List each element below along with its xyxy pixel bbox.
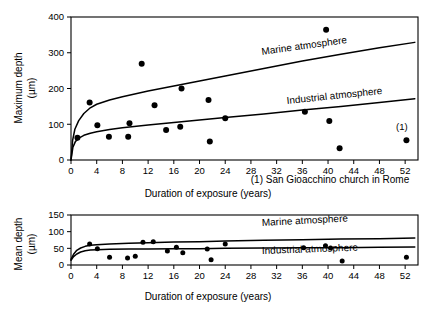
data-point <box>133 254 138 259</box>
data-point <box>209 257 214 262</box>
y-tick-label: 300 <box>48 47 64 58</box>
data-point <box>174 245 179 250</box>
fitted-curve <box>71 99 415 160</box>
x-tick-label: 16 <box>169 165 180 176</box>
data-point <box>403 137 409 143</box>
x-tick-label: 4 <box>94 270 99 281</box>
data-point <box>180 250 185 255</box>
x-tick-label: 12 <box>143 270 154 281</box>
y-tick-label: 200 <box>48 83 64 94</box>
curve-label-marine-top: Marine atmosphere <box>261 34 348 57</box>
x-tick-label: 28 <box>246 270 257 281</box>
data-point <box>163 127 169 133</box>
data-point <box>106 134 112 140</box>
data-point <box>223 242 228 247</box>
x-tick-label: 20 <box>194 165 205 176</box>
fitted-curves-top <box>71 42 415 160</box>
x-tick-label: 44 <box>348 270 359 281</box>
data-point <box>165 249 170 254</box>
y-tick-label: 100 <box>48 226 64 237</box>
figure-footnote: (1) San Gioacchino church in Rome <box>251 174 410 185</box>
data-point <box>222 115 228 121</box>
data-point <box>151 239 156 244</box>
y-axis-title-bottom-line2: (µm) <box>26 234 37 255</box>
data-point <box>326 118 332 124</box>
x-tick-label: 0 <box>68 270 73 281</box>
data-point <box>337 145 343 151</box>
x-tick-label: 48 <box>374 270 385 281</box>
x-tick-label: 0 <box>68 165 73 176</box>
x-axis-title-bottom: Duration of exposure (years) <box>145 291 272 302</box>
y-axis-title-top-line2: (µm) <box>26 78 37 99</box>
y-tick-label: 150 <box>48 209 64 220</box>
data-point <box>95 246 100 251</box>
data-point <box>94 122 100 128</box>
x-axis-title-top: Duration of exposure (years) <box>145 188 272 199</box>
fitted-curves-bottom <box>71 238 415 260</box>
corrosion-depth-figure: 04812162024283236404448520100200300400 M… <box>0 0 431 312</box>
data-point <box>125 256 130 261</box>
mean-depth-plot: 0481216202428323640444852050100150 Mean … <box>0 200 431 312</box>
x-tick-label: 8 <box>120 270 125 281</box>
data-point <box>404 255 409 260</box>
x-tick-label: 40 <box>323 270 334 281</box>
x-tick-label: 52 <box>400 270 411 281</box>
data-point <box>152 102 158 108</box>
y-tick-label: 0 <box>59 259 64 270</box>
y-tick-label: 50 <box>53 243 64 254</box>
y-axis-title-bottom-line1: Mean depth <box>13 218 24 271</box>
x-tick-label: 8 <box>120 165 125 176</box>
x-tick-label: 24 <box>220 270 231 281</box>
data-point <box>125 134 131 140</box>
curve-label-industrial-bottom: Industrial atmosphere <box>262 242 359 256</box>
data-point <box>139 61 145 67</box>
chart-mean-depth: 0481216202428323640444852050100150 Mean … <box>0 200 431 312</box>
data-point <box>302 109 308 115</box>
data-point <box>107 255 112 260</box>
maximum-depth-plot: 04812162024283236404448520100200300400 M… <box>0 0 431 200</box>
x-tick-label: 16 <box>169 270 180 281</box>
data-point <box>205 247 210 252</box>
point-annotation-marker: (1) <box>396 121 408 132</box>
data-point <box>340 259 345 264</box>
fitted-curve <box>71 42 415 160</box>
data-point <box>323 27 329 33</box>
y-tick-label: 100 <box>48 119 64 130</box>
data-point <box>140 240 145 245</box>
y-tick-label: 0 <box>59 154 64 165</box>
fitted-curve <box>71 247 415 260</box>
y-axis-title-top-line1: Maximum depth <box>13 52 24 123</box>
data-point <box>206 97 212 103</box>
data-point <box>87 99 93 105</box>
data-point <box>126 120 132 126</box>
x-tick-label: 24 <box>220 165 231 176</box>
data-point <box>74 135 80 141</box>
data-point <box>179 86 185 92</box>
chart-maximum-depth: 04812162024283236404448520100200300400 M… <box>0 0 431 200</box>
x-tick-label: 20 <box>194 270 205 281</box>
data-point <box>177 124 183 130</box>
x-tick-label: 32 <box>271 270 282 281</box>
data-point <box>87 242 92 247</box>
x-tick-label: 36 <box>297 270 308 281</box>
x-tick-label: 12 <box>143 165 154 176</box>
data-point <box>207 138 213 144</box>
y-tick-label: 400 <box>48 11 64 22</box>
x-tick-label: 4 <box>94 165 99 176</box>
